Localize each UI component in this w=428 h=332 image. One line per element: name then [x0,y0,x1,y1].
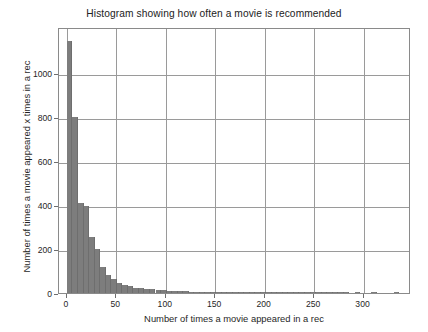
histogram-bar [394,292,400,293]
y-tick-mark [54,118,58,119]
x-tick-mark [363,294,364,298]
x-tick-mark [66,294,67,298]
y-tick-label: 0 [47,289,52,299]
plot-area [58,28,410,294]
x-tick-label: 200 [256,299,270,309]
histogram-bars [59,29,409,293]
y-tick-mark [54,250,58,251]
y-tick-mark [54,206,58,207]
x-tick-label: 150 [207,299,221,309]
y-tick-mark [54,74,58,75]
y-tick-mark [54,162,58,163]
y-tick-mark [54,294,58,295]
x-tick-label: 300 [355,299,369,309]
y-tick-label: 800 [38,113,52,123]
y-tick-label: 600 [38,157,52,167]
x-axis-label: Number of times a movie appeared in a re… [58,313,410,324]
histogram-bar [371,292,377,293]
x-tick-mark [115,294,116,298]
histogram-figure: Histogram showing how often a movie is r… [0,0,428,332]
histogram-bar [355,292,361,293]
y-tick-label: 1000 [33,69,52,79]
x-tick-label: 100 [158,299,172,309]
y-tick-label: 200 [38,245,52,255]
x-tick-mark [214,294,215,298]
chart-title: Histogram showing how often a movie is r… [0,8,428,19]
x-tick-mark [313,294,314,298]
histogram-bar [344,292,350,293]
x-tick-mark [165,294,166,298]
x-tick-mark [264,294,265,298]
x-tick-label: 50 [111,299,121,309]
y-tick-label: 400 [38,201,52,211]
y-axis-label: Number of times a movie appeared x times… [21,34,32,300]
x-tick-label: 0 [64,299,69,309]
x-tick-label: 250 [306,299,320,309]
